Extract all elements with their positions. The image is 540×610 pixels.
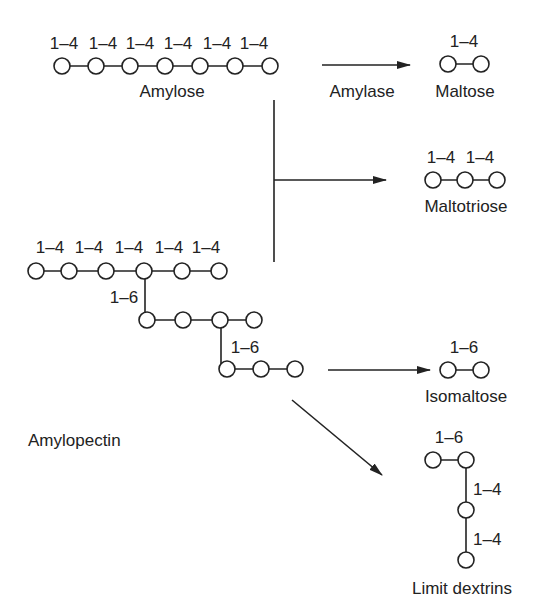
glucose-residue [54, 58, 70, 74]
bond-label: 1–4 [164, 34, 192, 53]
glucose-residue [253, 361, 269, 377]
glucose-residue [157, 58, 173, 74]
glucose-residue [458, 452, 474, 468]
glucose-residue [227, 58, 243, 74]
bond-label: 1–4 [466, 148, 494, 167]
glucose-residue [425, 172, 441, 188]
bond-label: 1–4 [155, 238, 183, 257]
bond-label: 1–4 [203, 34, 231, 53]
glucose-residue [61, 263, 77, 279]
maltose-label: Maltose [435, 82, 495, 101]
bond-label: 1–4 [192, 238, 220, 257]
limit-dextrins-label: Limit dextrins [412, 579, 512, 598]
bond-label: 1–4 [115, 238, 143, 257]
glucose-residue [139, 312, 155, 328]
glucose-residue [440, 56, 456, 72]
glucose-residue [211, 263, 227, 279]
glucose-residue [458, 552, 474, 568]
bond-label: 1–4 [89, 34, 117, 53]
glucose-residue [473, 56, 489, 72]
glucose-residue [489, 172, 505, 188]
bond-label: 1–4 [75, 238, 103, 257]
glucose-residue [98, 263, 114, 279]
branch-bond-label: 1–6 [110, 288, 138, 307]
limit-dextrins-product: 1–6 1–4 1–4 Limit dextrins [412, 428, 512, 598]
bond-label: 1–6 [450, 338, 478, 357]
glucose-residue [440, 362, 456, 378]
bond-label: 1–4 [50, 34, 78, 53]
bond-label: 1–4 [427, 148, 455, 167]
isomaltose-label: Isomaltose [425, 387, 507, 406]
glucose-residue [457, 172, 473, 188]
starch-digestion-diagram: 1–4 1–4 1–4 1–4 1–4 1–4 Amylose Amylase … [0, 0, 540, 610]
amylopectin-label: Amylopectin [28, 431, 121, 450]
maltose-product: 1–4 Maltose [435, 32, 495, 101]
glucose-residue [246, 312, 262, 328]
bond-label: 1–6 [435, 428, 463, 447]
enzyme-label: Amylase [329, 82, 394, 101]
glucose-residue [28, 263, 44, 279]
glucose-residue [262, 58, 278, 74]
amylopectin-structure: 1–4 1–4 1–4 1–4 1–4 1–6 1–6 Amylopectin [28, 238, 303, 450]
bond-label: 1–4 [36, 238, 64, 257]
amylose-chain: 1–4 1–4 1–4 1–4 1–4 1–4 Amylose [50, 34, 278, 101]
glucose-residue [287, 361, 303, 377]
glucose-residue [192, 58, 208, 74]
glucose-residue [174, 263, 190, 279]
bond-label: 1–4 [450, 32, 478, 51]
maltotriose-product: 1–4 1–4 Maltotriose [424, 148, 507, 216]
bond-label: 1–4 [473, 480, 501, 499]
glucose-residue [219, 361, 235, 377]
glucose-residue [136, 263, 152, 279]
glucose-residue [212, 312, 228, 328]
isomaltose-product: 1–6 Isomaltose [425, 338, 507, 406]
limit-dextrins-arrow-icon [292, 400, 382, 475]
glucose-residue [122, 58, 138, 74]
bond-label: 1–4 [240, 34, 268, 53]
amylose-label: Amylose [139, 82, 204, 101]
bond-label: 1–4 [473, 530, 501, 549]
glucose-residue [473, 362, 489, 378]
glucose-residue [425, 452, 441, 468]
glucose-residue [88, 58, 104, 74]
bond-label: 1–4 [126, 34, 154, 53]
glucose-residue [458, 502, 474, 518]
glucose-residue [175, 312, 191, 328]
maltotriose-label: Maltotriose [424, 197, 507, 216]
branch-bond-label: 1–6 [231, 338, 259, 357]
